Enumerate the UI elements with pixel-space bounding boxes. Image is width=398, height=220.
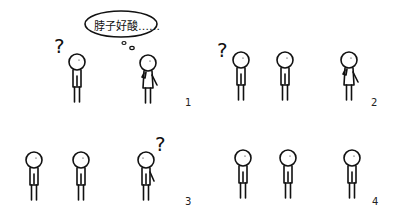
speech-bubble-text: 脖子好酸…… (94, 17, 160, 33)
question-mark-icon: ? (54, 36, 65, 56)
panel-number-1: 1 (185, 97, 191, 108)
question-mark-icon: ? (155, 134, 166, 154)
comic-strip: 脖子好酸…… ? ? ? 1 2 3 4 (0, 0, 398, 220)
panel-number-4: 4 (372, 196, 378, 207)
thought-dot (130, 46, 134, 49)
thought-dot (122, 42, 126, 45)
figure-thinking (140, 55, 157, 103)
figure-confused (69, 54, 85, 102)
panel-4 (235, 150, 360, 198)
panel-2 (233, 52, 358, 100)
panel-number-3: 3 (185, 196, 191, 207)
panel-3 (26, 152, 154, 200)
panel-number-2: 2 (371, 97, 377, 108)
question-mark-icon: ? (217, 40, 228, 60)
